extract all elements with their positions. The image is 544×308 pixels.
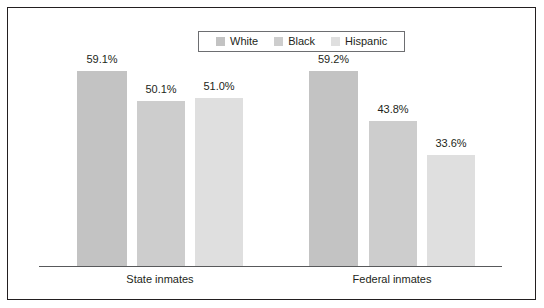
bar-state-white [77, 71, 127, 266]
bar-federal-black [369, 121, 417, 266]
bar-federal-hispanic [427, 155, 475, 266]
chart-legend: White Black Hispanic [198, 31, 405, 52]
legend-swatch-white-icon [216, 37, 225, 46]
legend-item-black: Black [274, 36, 315, 47]
x-axis-line [39, 266, 502, 267]
bar-value-federal-black: 43.8% [369, 104, 417, 115]
chart-container: 59.1% 50.1% 51.0% 59.2% 43.8% 33.6% Stat… [0, 0, 544, 308]
legend-swatch-hispanic-icon [331, 37, 340, 46]
bar-value-state-black: 50.1% [137, 84, 185, 95]
bar-value-state-white: 59.1% [77, 54, 127, 65]
bar-value-federal-white: 59.2% [309, 54, 358, 65]
legend-label-black: Black [288, 36, 315, 47]
legend-item-hispanic: Hispanic [331, 36, 387, 47]
legend-item-white: White [216, 36, 258, 47]
bar-value-state-hispanic: 51.0% [195, 81, 243, 92]
legend-label-hispanic: Hispanic [345, 36, 387, 47]
bar-state-hispanic [195, 98, 243, 266]
chart-frame: 59.1% 50.1% 51.0% 59.2% 43.8% 33.6% Stat… [7, 7, 536, 300]
group-label-state: State inmates [77, 273, 243, 285]
legend-swatch-black-icon [274, 37, 283, 46]
bar-state-black [137, 101, 185, 266]
group-label-federal: Federal inmates [309, 273, 475, 285]
legend-label-white: White [230, 36, 258, 47]
bar-value-federal-hispanic: 33.6% [427, 138, 475, 149]
bar-federal-white [309, 71, 358, 266]
